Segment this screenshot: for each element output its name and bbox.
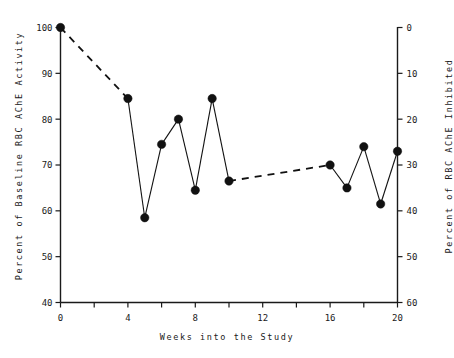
y-tick-label-right: 30 (407, 160, 418, 170)
y-tick-label-left: 100 (36, 23, 52, 33)
y-tick-label-left: 80 (42, 115, 53, 125)
y-tick-label-left: 50 (42, 252, 53, 262)
y-tick-label-right: 20 (407, 115, 418, 125)
y-tick-label-left: 90 (42, 69, 53, 79)
x-tick-label: 4 (125, 313, 130, 323)
y-tick-label-right: 0 (407, 23, 412, 33)
data-point-marker (225, 177, 233, 185)
y-tick-label-left: 40 (42, 298, 53, 308)
data-point-marker (157, 140, 165, 148)
y-tick-label-left: 60 (42, 206, 53, 216)
data-point-marker (56, 23, 64, 31)
data-point-marker (174, 115, 182, 123)
data-point-marker (141, 214, 149, 222)
data-point-marker (376, 200, 384, 208)
y-tick-label-right: 10 (407, 69, 418, 79)
x-tick-label: 12 (257, 313, 268, 323)
y-tick-label-left: 70 (42, 160, 53, 170)
y-axis-left-title: Percent of Baseline RBC AChE Activity (14, 6, 24, 306)
x-tick-label: 0 (58, 313, 63, 323)
chart-figure: 4050607080901000102030405060048121620 Pe… (0, 0, 454, 358)
x-axis-title: Weeks into the Study (0, 332, 454, 342)
x-tick-label: 8 (193, 313, 198, 323)
y-tick-label-right: 40 (407, 206, 418, 216)
x-tick-label: 20 (392, 313, 403, 323)
data-point-marker (208, 94, 216, 102)
data-point-marker (343, 184, 351, 192)
y-axis-right-title: Percent of RBC AChE Inhibited (444, 6, 454, 306)
data-point-marker (360, 142, 368, 150)
data-point-marker (393, 147, 401, 155)
y-tick-label-right: 60 (407, 298, 418, 308)
x-tick-label: 16 (325, 313, 336, 323)
y-tick-label-right: 50 (407, 252, 418, 262)
data-point-marker (326, 161, 334, 169)
data-point-marker (191, 186, 199, 194)
data-point-marker (124, 94, 132, 102)
line-chart-plot: 4050607080901000102030405060048121620 (0, 0, 454, 358)
